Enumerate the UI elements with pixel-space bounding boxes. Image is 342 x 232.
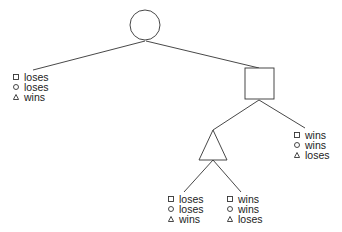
circle-icon: [225, 206, 234, 212]
outcome-right: wins wins loses: [292, 130, 330, 160]
circle-icon: [11, 84, 20, 90]
edge-triangle-left: [184, 160, 213, 192]
circle-icon: [166, 206, 175, 212]
outcome-label: wins: [24, 92, 45, 102]
triangle-icon: [11, 94, 20, 100]
edge-root-square: [146, 41, 259, 68]
outcome-bottom-right: wins wins loses: [225, 194, 263, 224]
square-icon: [11, 74, 20, 80]
edge-root-left: [33, 41, 145, 70]
triangle-icon: [292, 152, 301, 158]
triangle-node: [199, 130, 227, 160]
edge-square-right: [259, 100, 305, 128]
outcome-label: loses: [238, 214, 263, 224]
circle-node: [130, 10, 160, 40]
triangle-icon: [225, 216, 234, 222]
circle-icon: [292, 142, 301, 148]
square-node: [245, 68, 274, 99]
square-icon: [292, 132, 301, 138]
edge-triangle-right: [213, 160, 241, 192]
square-icon: [225, 196, 234, 202]
outcome-bottom-left: loses loses wins: [166, 194, 204, 224]
triangle-icon: [166, 216, 175, 222]
square-icon: [166, 196, 175, 202]
outcome-label: wins: [179, 214, 200, 224]
edge-square-triangle: [213, 100, 259, 130]
outcome-label: loses: [305, 150, 330, 160]
outcome-left: loses loses wins: [11, 72, 49, 102]
